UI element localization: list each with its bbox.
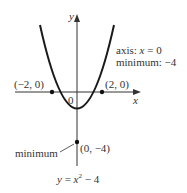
- minimum-pointer-line: [60, 144, 74, 152]
- y-axis-label: y: [68, 10, 74, 22]
- equation-rest: − 4: [82, 173, 100, 185]
- x-axis-label: x: [132, 94, 138, 106]
- left-intercept-label: (−2, 0): [14, 78, 44, 91]
- right-intercept-label: (2, 0): [105, 78, 129, 91]
- origin-label: 0: [68, 94, 74, 106]
- vertex-label: (0, −4): [80, 142, 110, 155]
- axis-annotation: axis: x = 0: [116, 44, 162, 56]
- axis-annotation-suffix: = 0: [144, 44, 162, 56]
- minimum-pointer-label: minimum: [15, 147, 58, 159]
- point-left-intercept: [50, 90, 54, 94]
- y-axis-arrow-icon: [74, 14, 80, 22]
- axis-annotation-prefix: axis:: [116, 44, 140, 56]
- equation-label: y = x2 − 4: [56, 172, 100, 185]
- parabola-graph: y x 0 (−2, 0) (2, 0) (0, −4) axis: x = 0…: [0, 0, 187, 193]
- equation-equals: =: [62, 173, 74, 185]
- point-right-intercept: [100, 90, 104, 94]
- point-vertex: [75, 140, 79, 144]
- minimum-annotation: minimum: −4: [116, 56, 177, 68]
